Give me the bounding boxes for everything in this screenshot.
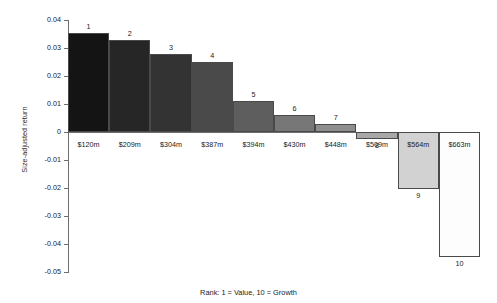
- category-label: $209m: [109, 140, 150, 149]
- y-tick-label: 0: [57, 127, 61, 136]
- bar: [109, 40, 150, 132]
- rank-label: 2: [109, 29, 150, 38]
- x-axis-caption: Rank: 1 = Value, 10 = Growth: [0, 288, 497, 297]
- y-tick-label: -0.03: [45, 211, 61, 220]
- y-axis-label: Size-adjusted return: [20, 75, 29, 205]
- category-label: $430m: [274, 140, 315, 149]
- category-label: $663m: [439, 140, 480, 149]
- bar: [233, 101, 274, 132]
- bar: [192, 62, 233, 132]
- plot-area: 0.040.030.020.010-0.01-0.02-0.03-0.04-0.…: [68, 20, 480, 272]
- category-label: $387m: [192, 140, 233, 149]
- y-tick-mark: [64, 132, 69, 133]
- y-tick-label: 0.02: [47, 71, 61, 80]
- bar: [274, 115, 315, 132]
- bar: [68, 33, 109, 132]
- bar: [356, 132, 397, 139]
- y-tick-label: -0.05: [45, 267, 61, 276]
- y-tick-label: 0.04: [47, 15, 61, 24]
- y-tick-label: -0.01: [45, 155, 61, 164]
- rank-label: 3: [150, 43, 191, 52]
- y-tick-mark: [64, 216, 69, 217]
- y-tick-label: 0.03: [47, 43, 61, 52]
- rank-label: 7: [315, 113, 356, 122]
- rank-label: 6: [274, 104, 315, 113]
- rank-label: 4: [192, 51, 233, 60]
- y-tick-label: -0.04: [45, 239, 61, 248]
- bar: [150, 54, 191, 132]
- y-tick-mark: [64, 20, 69, 21]
- bar: [315, 124, 356, 132]
- y-tick-label: -0.02: [45, 183, 61, 192]
- y-tick-mark: [64, 160, 69, 161]
- category-label: $394m: [233, 140, 274, 149]
- rank-label: 9: [398, 191, 439, 200]
- y-tick-label: 0.01: [47, 99, 61, 108]
- chart-container: Size-adjusted return 0.040.030.020.010-0…: [0, 0, 497, 303]
- y-tick-mark: [64, 188, 69, 189]
- category-label: $509m: [356, 140, 397, 149]
- rank-label: 1: [68, 22, 109, 31]
- category-label: $304m: [150, 140, 191, 149]
- rank-label: 10: [439, 259, 480, 268]
- rank-label: 5: [233, 90, 274, 99]
- bar: [439, 132, 480, 257]
- category-label: $120m: [68, 140, 109, 149]
- y-tick-mark: [64, 244, 69, 245]
- category-label: $564m: [398, 140, 439, 149]
- category-label: $448m: [315, 140, 356, 149]
- y-tick-mark: [64, 272, 69, 273]
